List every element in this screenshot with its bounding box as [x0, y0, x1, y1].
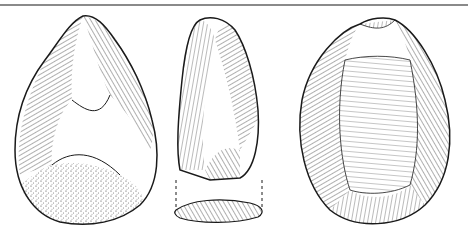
back-view [300, 18, 450, 224]
hand-axe-illustration [0, 0, 468, 237]
side-view [175, 18, 262, 223]
front-view [15, 16, 157, 225]
